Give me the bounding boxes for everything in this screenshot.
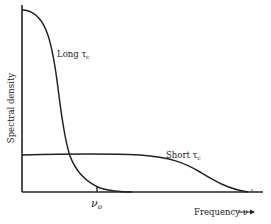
spectral-density-chart: Spectral density Long τc Short τc νo Fre…	[0, 0, 271, 224]
long-tau-curve	[22, 10, 132, 192]
arrowhead-icon	[250, 210, 255, 215]
long-tau-label: Long τc	[57, 49, 90, 60]
nu0-label: νo	[91, 197, 102, 211]
short-tau-curve	[22, 154, 248, 192]
y-axis-label: Spectral density	[6, 73, 16, 143]
short-tau-label: Short τc	[166, 150, 201, 161]
